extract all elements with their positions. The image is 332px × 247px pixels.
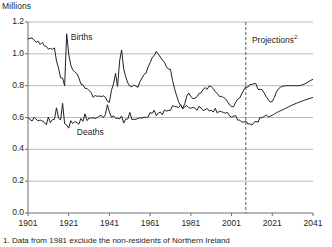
births-label: Births [71,32,93,42]
x-axis-tick-label: 2041 [293,218,332,228]
footnote-text: Data from 1981 exclude the non-residents… [12,236,230,245]
x-axis-tick-label: 1961 [130,218,170,228]
footnote-superscript: 2 [294,34,297,40]
y-axis-tick-label: 1.0 [0,48,24,58]
y-axis-tick-label: 0.2 [0,175,24,185]
x-axis-tick-label: 1981 [171,218,211,228]
x-axis-tick-label: 2021 [252,218,292,228]
y-axis-tick-label: 0.0 [0,207,24,217]
y-axis-tick-label: 0.8 [0,80,24,90]
footnote: 1. Data from 1981 exclude the non-reside… [3,236,230,245]
x-axis-tick-label: 1901 [8,218,48,228]
x-axis-tick-label: 1921 [49,218,89,228]
x-axis-tick-label: 1941 [89,218,129,228]
chart-container: Millions 0.00.20.40.60.81.01.2 190119211… [0,0,332,247]
x-axis-tick-label: 2001 [212,218,252,228]
y-axis-tick-label: 0.4 [0,143,24,153]
projections-label: Projections2 [252,34,297,45]
y-axis-tick-label: 1.2 [0,16,24,26]
y-axis-tick-label: 0.6 [0,112,24,122]
deaths-label: Deaths [77,127,104,137]
footnote-marker: 1. [3,236,10,245]
